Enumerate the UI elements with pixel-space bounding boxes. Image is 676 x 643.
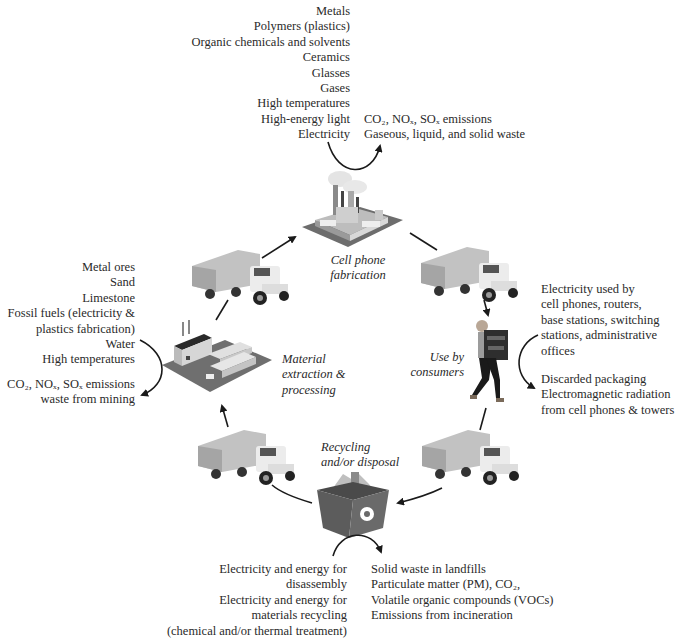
recycling-to-truck-arrow (272, 485, 312, 503)
recycling-io-arrow (333, 535, 381, 556)
extraction-io-arrow (140, 340, 162, 395)
truck-to-use-arrow (484, 300, 488, 315)
truck-to-fabrication-arrow (262, 237, 295, 258)
truck-to-recycling-arrow (398, 488, 442, 503)
extraction-to-truck-arrow (216, 300, 228, 320)
use-to-truck-arrow (480, 408, 486, 430)
cycle-arrows (0, 0, 676, 643)
use-io-arrow (519, 335, 538, 388)
fabrication-io-arrow (328, 142, 380, 170)
fabrication-to-truck-arrow (410, 233, 437, 250)
truck-to-extraction-arrow (222, 406, 228, 427)
